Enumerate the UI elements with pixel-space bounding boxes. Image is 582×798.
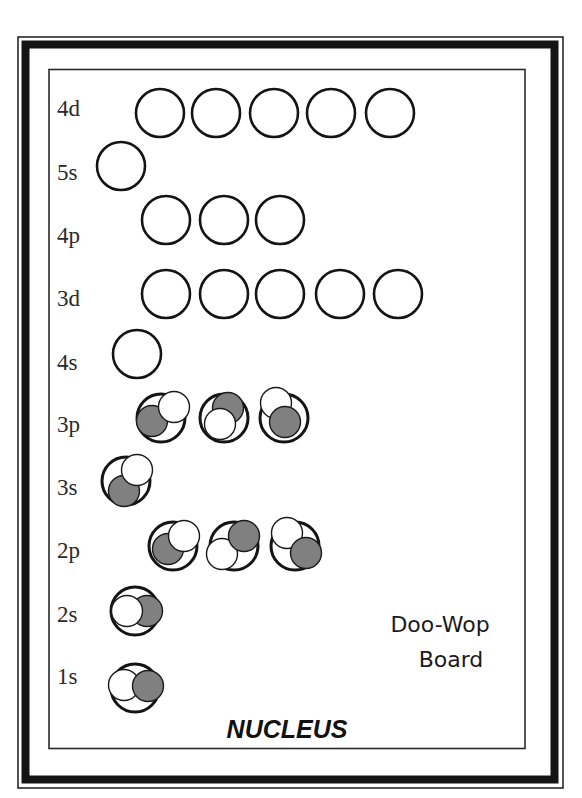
electron-gray[interactable] — [270, 407, 301, 438]
sublevel-label-3s: 3s — [57, 475, 78, 500]
sublevel-labels: 4d 5s 4p 3d 4s 3p 3s 2p 2s 1s — [57, 96, 81, 689]
orbital-circle[interactable] — [316, 270, 364, 318]
orbital-3d-3[interactable] — [256, 270, 304, 318]
sublevel-label-2s: 2s — [57, 602, 78, 627]
sublevel-label-3p: 3p — [57, 412, 80, 437]
sublevel-label-1s: 1s — [57, 664, 78, 689]
orbital-4d-5[interactable] — [366, 89, 414, 137]
electron-white[interactable] — [169, 521, 200, 552]
orbital-circle[interactable] — [97, 142, 145, 190]
orbital-4d-1[interactable] — [136, 89, 184, 137]
orbital-5s-1[interactable] — [97, 142, 145, 190]
orbital-circle[interactable] — [256, 270, 304, 318]
orbital-grid — [97, 89, 422, 712]
orbital-4p-3[interactable] — [256, 196, 304, 244]
orbital-circle[interactable] — [136, 89, 184, 137]
orbital-2p-1[interactable] — [149, 521, 200, 571]
orbital-circle[interactable] — [142, 196, 190, 244]
orbital-4p-1[interactable] — [142, 196, 190, 244]
sublevel-label-5s: 5s — [57, 160, 78, 185]
orbital-2s-1[interactable] — [111, 587, 163, 635]
orbital-circle[interactable] — [366, 89, 414, 137]
orbital-2p-2[interactable] — [207, 521, 260, 571]
board-title-line2: Board — [419, 647, 484, 672]
orbital-3d-4[interactable] — [316, 270, 364, 318]
orbital-circle[interactable] — [113, 330, 161, 378]
orbital-3p-2[interactable] — [200, 393, 248, 443]
orbital-4d-4[interactable] — [307, 89, 355, 137]
sublevel-label-4d: 4d — [57, 96, 81, 121]
nucleus-label: NUCLEUS — [227, 715, 348, 743]
orbital-4d-3[interactable] — [250, 89, 298, 137]
orbital-3d-1[interactable] — [142, 270, 190, 318]
orbital-3s-1[interactable] — [102, 455, 153, 507]
orbital-3d-5[interactable] — [374, 270, 422, 318]
orbital-circle[interactable] — [192, 89, 240, 137]
electron-white[interactable] — [159, 392, 190, 423]
orbital-3p-3[interactable] — [260, 388, 308, 443]
sublevel-label-3d: 3d — [57, 286, 81, 311]
sublevel-label-2p: 2p — [57, 538, 80, 563]
orbital-3d-2[interactable] — [200, 270, 248, 318]
electron-white[interactable] — [205, 409, 236, 440]
orbital-circle[interactable] — [200, 196, 248, 244]
electron-gray[interactable] — [291, 538, 322, 569]
orbital-2p-3[interactable] — [271, 518, 322, 571]
electron-gray[interactable] — [229, 521, 260, 552]
board-title-line1: Doo-Wop — [390, 612, 489, 637]
orbital-circle[interactable] — [307, 89, 355, 137]
orbital-circle[interactable] — [256, 196, 304, 244]
orbital-circle[interactable] — [374, 270, 422, 318]
orbital-1s-1[interactable] — [109, 664, 164, 712]
orbital-circle[interactable] — [200, 270, 248, 318]
electron-white[interactable] — [112, 596, 143, 627]
orbital-circle[interactable] — [142, 270, 190, 318]
sublevel-label-4s: 4s — [57, 350, 78, 375]
orbital-3p-1[interactable] — [137, 392, 190, 443]
orbital-4p-2[interactable] — [200, 196, 248, 244]
electron-white[interactable] — [122, 455, 153, 486]
orbital-4s-1[interactable] — [113, 330, 161, 378]
doo-wop-board: 4d 5s 4p 3d 4s 3p 3s 2p 2s 1s Doo-Wop Bo… — [0, 0, 582, 798]
sublevel-label-4p: 4p — [57, 223, 80, 248]
orbital-circle[interactable] — [250, 89, 298, 137]
electron-gray[interactable] — [133, 671, 164, 702]
orbital-4d-2[interactable] — [192, 89, 240, 137]
